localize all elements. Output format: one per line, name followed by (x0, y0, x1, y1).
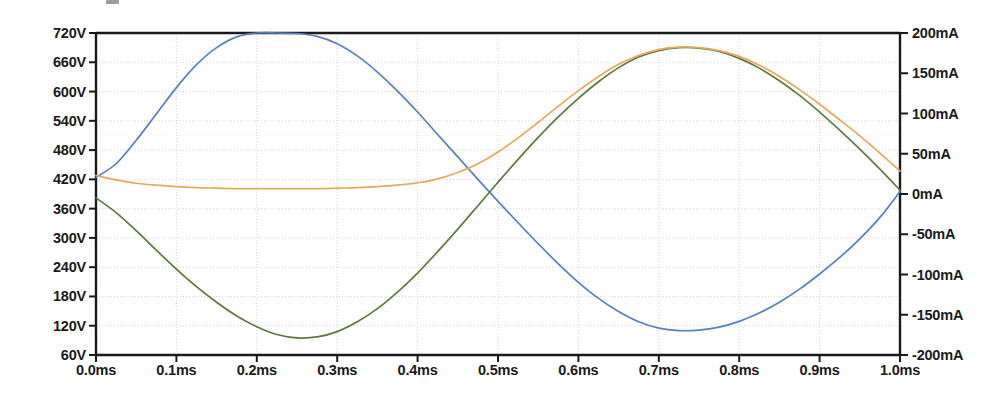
x-tick-label: 0.5ms (478, 362, 518, 378)
x-tick-label: 0.1ms (156, 362, 196, 378)
y-left-tick-label: 120V (0, 318, 86, 334)
x-tick-label: 0.3ms (317, 362, 357, 378)
x-tick-label: 0.4ms (398, 362, 438, 378)
x-tick-label: 0.8ms (719, 362, 759, 378)
y-left-tick-label: 660V (0, 54, 86, 70)
y-right-tick-label: 50mA (912, 146, 951, 162)
y-left-tick-label: 240V (0, 259, 86, 275)
y-right-tick-label: -200mA (912, 347, 963, 363)
y-left-tick-label: 480V (0, 142, 86, 158)
y-right-tick-label: 200mA (912, 25, 959, 41)
y-left-tick-label: 540V (0, 113, 86, 129)
x-tick-label: 0.7ms (639, 362, 679, 378)
y-right-tick-label: 0mA (912, 186, 943, 202)
y-right-tick-label: -100mA (912, 267, 963, 283)
y-left-tick-label: 360V (0, 201, 86, 217)
x-tick-label: 0.6ms (558, 362, 598, 378)
plot-canvas (0, 0, 1006, 410)
x-tick-label: 0.0ms (76, 362, 116, 378)
y-left-tick-label: 720V (0, 25, 86, 41)
y-right-tick-label: 100mA (912, 106, 959, 122)
y-right-tick-label: -50mA (912, 226, 955, 242)
y-left-tick-label: 300V (0, 230, 86, 246)
y-left-tick-label: 420V (0, 171, 86, 187)
y-left-tick-label: 60V (0, 347, 86, 363)
x-tick-label: 0.2ms (237, 362, 277, 378)
y-left-tick-label: 600V (0, 84, 86, 100)
waveform-chart: 720V660V600V540V480V420V360V300V240V180V… (0, 0, 1006, 410)
x-tick-label: 0.9ms (800, 362, 840, 378)
y-right-tick-label: -150mA (912, 307, 963, 323)
y-left-tick-label: 180V (0, 288, 86, 304)
y-right-tick-label: 150mA (912, 65, 959, 81)
x-tick-label: 1.0ms (880, 362, 920, 378)
